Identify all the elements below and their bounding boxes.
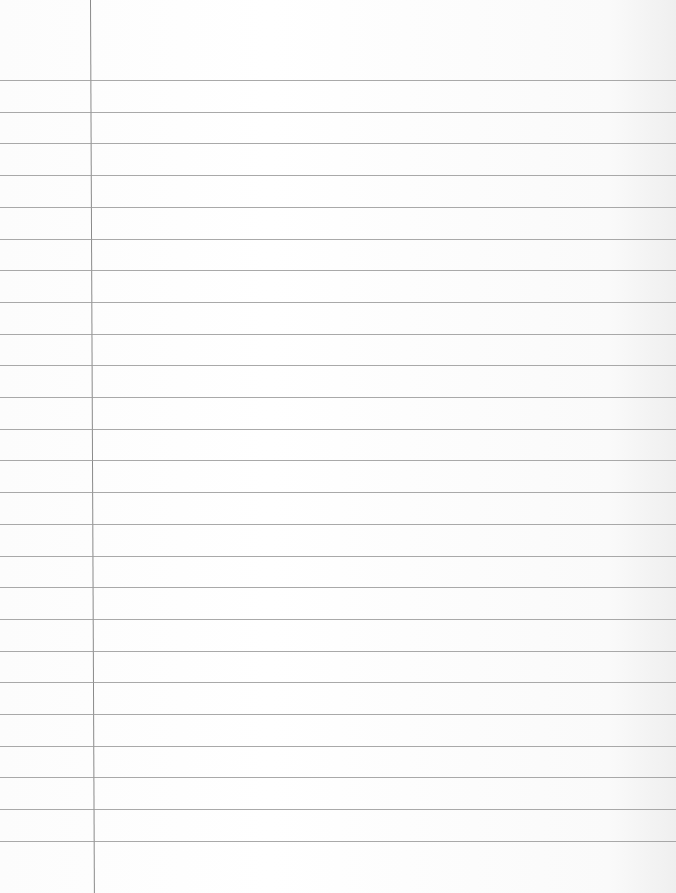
ruled-line	[0, 651, 676, 652]
ruled-line	[0, 143, 676, 144]
ruled-line	[0, 556, 676, 557]
ruled-line	[0, 270, 676, 271]
ruled-line	[0, 175, 676, 176]
ruled-line	[0, 524, 676, 525]
ruled-line	[0, 334, 676, 335]
ruled-line	[0, 587, 676, 588]
ruled-line	[0, 302, 676, 303]
ruled-line	[0, 746, 676, 747]
ruled-line	[0, 397, 676, 398]
ruled-line	[0, 714, 676, 715]
ruled-line	[0, 809, 676, 810]
ruled-line	[0, 365, 676, 366]
ruled-line	[0, 112, 676, 113]
lined-paper	[0, 0, 676, 893]
ruled-line	[0, 492, 676, 493]
ruled-line	[0, 239, 676, 240]
ruled-line	[0, 460, 676, 461]
ruled-line	[0, 80, 676, 81]
ruled-line	[0, 619, 676, 620]
ruled-line	[0, 841, 676, 842]
ruled-line	[0, 429, 676, 430]
ruled-line	[0, 682, 676, 683]
ruled-line	[0, 777, 676, 778]
margin-line	[90, 0, 95, 893]
ruled-line	[0, 207, 676, 208]
